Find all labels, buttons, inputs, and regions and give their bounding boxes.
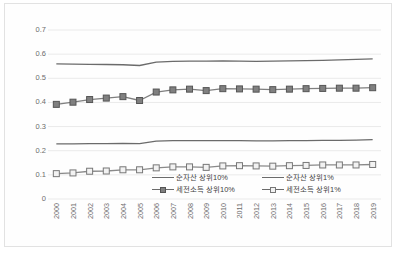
x-axis-tick-label: 2018 [352,203,361,219]
legend-marker-swatch [262,186,284,194]
x-axis-tick-label: 2019 [369,203,378,219]
x-axis-tick-label: 2010 [219,203,228,219]
x-axis-tick-label: 2013 [269,203,278,219]
legend-label: 순자산 상위10% [176,173,228,182]
chart-legend: 순자산 상위10% 순자산 상위1% 세전소득 상위10% 세전소득 상위1% [152,173,352,203]
x-axis: 2000200120022003200420052006200720082009… [0,0,398,253]
legend-item-pretaxincome-top1: 세전소득 상위1% [262,185,341,195]
x-axis-tick-label: 2011 [235,203,244,218]
x-axis-tick-label: 2000 [52,203,61,219]
x-axis-tick-label: 2003 [102,203,111,219]
x-axis-tick-label: 2006 [152,203,161,219]
x-axis-tick-label: 2017 [335,203,344,219]
x-axis-tick-label: 2016 [319,203,328,219]
legend-line-swatch [152,174,174,182]
x-axis-tick-label: 2012 [252,203,261,219]
legend-label: 세전소득 상위10% [176,185,235,194]
x-axis-tick-label: 2014 [285,203,294,219]
x-axis-tick-label: 2007 [169,203,178,219]
legend-label: 세전소득 상위1% [286,185,341,194]
legend-item-networth-top10: 순자산 상위10% [152,173,228,183]
legend-label: 순자산 상위1% [286,173,334,182]
legend-marker-swatch [152,186,174,194]
legend-item-networth-top1: 순자산 상위1% [262,173,334,183]
x-axis-tick-label: 2002 [86,203,95,219]
x-axis-tick-label: 2004 [119,203,128,219]
legend-line-swatch [262,174,284,182]
legend-item-pretaxincome-top10: 세전소득 상위10% [152,185,235,195]
x-axis-tick-label: 2001 [69,203,78,219]
x-axis-tick-label: 2009 [202,203,211,219]
x-axis-tick-label: 2005 [136,203,145,219]
x-axis-tick-label: 2008 [186,203,195,219]
x-axis-tick-label: 2015 [302,203,311,219]
